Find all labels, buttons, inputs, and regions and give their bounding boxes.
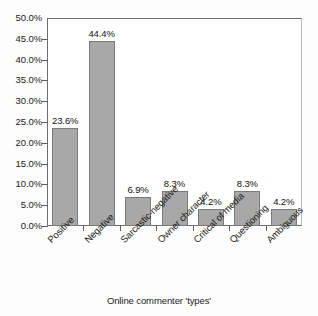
x-tick-mark	[266, 226, 267, 231]
y-tick-mark	[42, 80, 48, 81]
x-tick-mark	[120, 226, 121, 231]
y-tick-mark	[42, 205, 48, 206]
x-axis-title: Online commenter 'types'	[0, 295, 318, 306]
bar-chart: 0.0%5.0%10.0%15.0%20.0%25.0%30.0%35.0%40…	[0, 0, 318, 316]
x-tick-mark	[83, 226, 84, 231]
x-tick-mark	[156, 226, 157, 231]
x-tick-mark	[229, 226, 230, 231]
bar-value-label: 4.2%	[269, 196, 299, 207]
y-tick-label: 20.0%	[0, 137, 42, 148]
y-tick-label: 15.0%	[0, 158, 42, 169]
y-tick-label: 5.0%	[0, 199, 42, 210]
bar-value-label: 44.4%	[87, 28, 117, 39]
y-tick-mark	[42, 60, 48, 61]
y-tick-mark	[42, 164, 48, 165]
y-tick-mark	[42, 101, 48, 102]
y-tick-mark	[42, 39, 48, 40]
bar-value-label: 23.6%	[50, 115, 80, 126]
y-tick-label: 30.0%	[0, 95, 42, 106]
y-tick-label: 25.0%	[0, 116, 42, 127]
y-tick-mark	[42, 122, 48, 123]
x-tick-mark	[193, 226, 194, 231]
bar	[89, 41, 115, 226]
y-tick-label: 45.0%	[0, 33, 42, 44]
y-tick-mark	[42, 226, 48, 227]
bar	[52, 128, 78, 226]
y-tick-mark	[42, 143, 48, 144]
y-tick-label: 10.0%	[0, 178, 42, 189]
bar-value-label: 8.3%	[232, 178, 262, 189]
y-tick-mark	[42, 184, 48, 185]
y-tick-label: 40.0%	[0, 54, 42, 65]
y-tick-label: 50.0%	[0, 12, 42, 23]
y-tick-label: 0.0%	[0, 220, 42, 231]
y-tick-label: 35.0%	[0, 74, 42, 85]
bar-value-label: 6.9%	[123, 184, 153, 195]
